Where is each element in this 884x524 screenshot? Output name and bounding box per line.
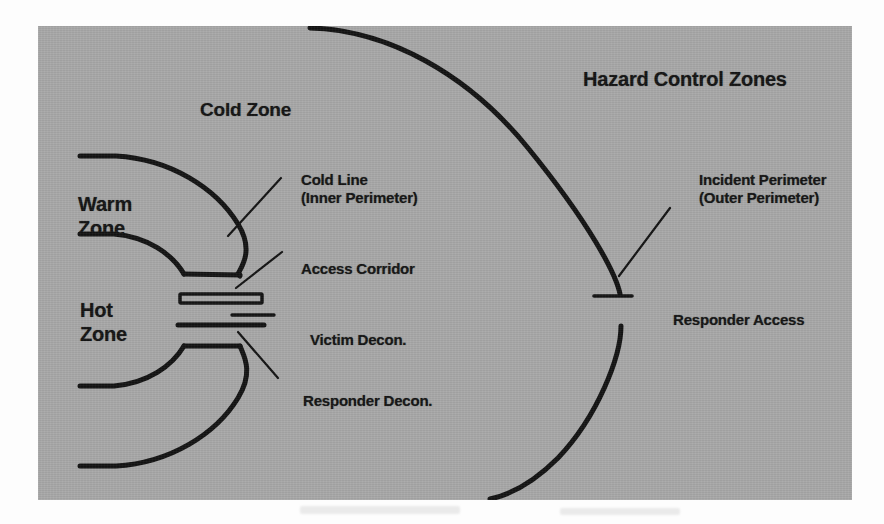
incident-perimeter-arc-lower	[490, 326, 621, 499]
scan-smudge	[560, 508, 680, 515]
incident-perimeter-callout-label: Incident Perimeter (Outer Perimeter)	[699, 171, 826, 208]
responder-decon-callout-label: Responder Decon.	[303, 392, 432, 410]
responder-access-callout-label: Responder Access	[673, 311, 804, 329]
hazard-control-zones-diagram: Hazard Control Zones Cold Zone Warm Zone…	[38, 26, 852, 500]
incident-perimeter-callout-line2: (Outer Perimeter)	[699, 189, 826, 207]
figure-title: Hazard Control Zones	[583, 68, 787, 92]
scan-smudge	[300, 506, 460, 514]
warm-zone-label: Warm Zone	[78, 192, 132, 241]
hot-zone-label: Hot Zone	[80, 298, 127, 347]
incident-perimeter-leader	[619, 208, 670, 276]
cold-line-arc-lower	[80, 346, 247, 466]
incident-perimeter-arc-upper	[310, 28, 620, 294]
access-corridor-top-line	[184, 274, 240, 275]
incident-perimeter-callout-line1: Incident Perimeter	[699, 171, 826, 189]
cold-line-leader	[228, 178, 281, 236]
hot-zone-label-line1: Hot	[80, 298, 127, 322]
cold-zone-label: Cold Zone	[200, 99, 291, 121]
warm-hot-boundary-arc-lower	[80, 346, 184, 386]
victim-decon-corridor-bar	[180, 294, 262, 303]
victim-decon-callout-label: Victim Decon.	[310, 331, 406, 349]
figure-page: Hazard Control Zones Cold Zone Warm Zone…	[0, 0, 884, 524]
warm-zone-label-line2: Zone	[78, 216, 132, 240]
diagram-vector-artwork	[38, 26, 852, 500]
cold-line-callout-line2: (Inner Perimeter)	[301, 189, 418, 207]
cold-line-callout-line1: Cold Line	[301, 171, 418, 189]
hot-zone-label-line2: Zone	[80, 322, 127, 346]
cold-line-callout-label: Cold Line (Inner Perimeter)	[301, 171, 418, 208]
warm-zone-label-line1: Warm	[78, 192, 132, 216]
access-corridor-callout-label: Access Corridor	[301, 260, 415, 278]
